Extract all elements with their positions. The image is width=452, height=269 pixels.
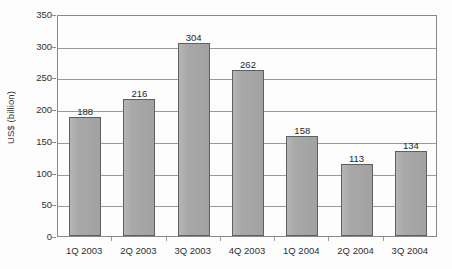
- x-tick-mark: [383, 237, 384, 241]
- y-tick-mark: [52, 15, 56, 16]
- y-tick-mark: [52, 237, 56, 238]
- x-tick-label: 1Q 2004: [273, 245, 329, 257]
- y-tick-label: 350: [26, 10, 52, 20]
- y-tick-label: 0: [26, 232, 52, 242]
- x-tick-label: 2Q 2004: [328, 245, 384, 257]
- x-tick-mark: [220, 237, 221, 241]
- bar-series: 188216304262158113134: [58, 16, 436, 236]
- x-tick-mark: [274, 237, 275, 241]
- bar-value-label: 134: [391, 140, 431, 151]
- y-axis-ticks: 350300250200150100500: [24, 0, 52, 269]
- bar: [395, 151, 427, 236]
- y-tick-label: 100: [26, 169, 52, 179]
- plot-area: 188216304262158113134: [57, 15, 437, 237]
- bar: [232, 70, 264, 236]
- bar-value-label: 188: [65, 106, 105, 117]
- x-tick-mark: [111, 237, 112, 241]
- y-tick-label: 50: [26, 200, 52, 210]
- bar-value-label: 262: [228, 59, 268, 70]
- y-tick-label: 300: [26, 42, 52, 52]
- bar-value-label: 113: [337, 153, 377, 164]
- y-tick-label: 250: [26, 73, 52, 83]
- x-tick-label: 3Q 2004: [382, 245, 438, 257]
- y-axis-title: US$ (billion): [2, 0, 20, 252]
- x-tick-mark: [166, 237, 167, 241]
- bar: [178, 43, 210, 236]
- x-tick-label: 4Q 2003: [219, 245, 275, 257]
- y-tick-label: 200: [26, 105, 52, 115]
- bar: [69, 117, 101, 236]
- x-tick-label: 1Q 2003: [56, 245, 112, 257]
- y-tick-mark: [52, 142, 56, 143]
- y-tick-label: 150: [26, 137, 52, 147]
- y-tick-mark: [52, 174, 56, 175]
- bar-value-label: 304: [174, 32, 214, 43]
- bar-chart-figure: US$ (billion) 350300250200150100500 1882…: [0, 0, 452, 269]
- y-tick-mark: [52, 47, 56, 48]
- bar: [341, 164, 373, 236]
- x-tick-mark: [328, 237, 329, 241]
- y-tick-mark: [52, 78, 56, 79]
- bar: [123, 99, 155, 236]
- bar-value-label: 158: [282, 125, 322, 136]
- bar-value-label: 216: [119, 88, 159, 99]
- y-tick-mark: [52, 110, 56, 111]
- bar: [286, 136, 318, 236]
- x-axis-labels: 1Q 20032Q 20033Q 20034Q 20031Q 20042Q 20…: [57, 243, 437, 259]
- x-tick-label: 3Q 2003: [165, 245, 221, 257]
- x-tick-label: 2Q 2003: [110, 245, 166, 257]
- y-tick-mark: [52, 205, 56, 206]
